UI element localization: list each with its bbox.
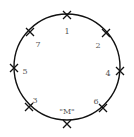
point-label: 1 <box>64 27 69 36</box>
point-label: 3 <box>32 96 37 105</box>
point-label: 7 <box>35 40 40 49</box>
point-label: 5 <box>22 67 27 76</box>
point-label: "M" <box>59 107 75 116</box>
point-marker: 3 <box>25 96 38 111</box>
point-label: 6 <box>93 97 98 106</box>
markers-group: 1246"M"357 <box>10 11 124 128</box>
point-marker: 5 <box>10 64 28 76</box>
point-marker: "M" <box>59 107 75 128</box>
point-label: 2 <box>95 41 100 50</box>
cross-mark-icon <box>63 120 71 128</box>
point-marker: 4 <box>105 67 124 78</box>
circle-diagram: 1246"M"357 <box>0 0 134 137</box>
cross-mark-icon <box>63 11 71 19</box>
point-label: 4 <box>105 69 110 78</box>
